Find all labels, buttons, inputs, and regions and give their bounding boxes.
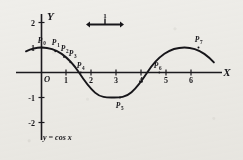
x-tick-label-6: 6 (189, 76, 193, 85)
point-marker-P3 (69, 61, 71, 63)
point-label-P6-letter: P (154, 61, 159, 70)
point-label-P4-letter: P (77, 61, 82, 70)
y-tick-label-neg1: -1 (28, 94, 35, 103)
y-tick-label-neg2: -2 (28, 119, 35, 128)
y-axis-label: Y (47, 10, 55, 22)
scale-bar-arrow-left-icon (86, 22, 90, 28)
x-tick-label-5: 5 (164, 76, 168, 85)
point-label-P3-letter: P (69, 49, 74, 58)
point-label-P4: P 4 (77, 61, 85, 71)
equation-caption: y = cos x (42, 133, 72, 142)
point-marker-P0 (41, 47, 43, 49)
point-label-P6-sub: 6 (159, 65, 162, 71)
point-label-P4-sub: 4 (82, 65, 85, 71)
scale-bar-arrow-right-icon (120, 22, 124, 28)
point-label-P5: P 5 (116, 101, 124, 111)
cosine-graph-figure: X Y O 1 2 3 4 5 6 2 1 -1 -2 P 0 P 1 P 2 … (0, 0, 243, 160)
point-label-P0-sub: 0 (43, 40, 46, 46)
point-label-P7: P 7 (195, 35, 203, 45)
point-label-P7-letter: P (195, 35, 200, 44)
point-marker-P7 (198, 47, 200, 49)
x-axis-label: X (222, 66, 231, 78)
point-label-P7-sub: 7 (200, 39, 203, 45)
point-label-P0-letter: P (38, 36, 43, 45)
x-tick-label-3: 3 (114, 76, 118, 85)
point-label-P6: P 6 (154, 61, 162, 71)
point-label-P5-letter: P (116, 101, 121, 110)
y-tick-label-2: 2 (31, 19, 35, 28)
point-label-P3: P 3 (69, 49, 77, 59)
point-marker-P5 (119, 97, 121, 99)
point-label-P2-letter: P (61, 44, 66, 53)
point-label-P5-sub: 5 (121, 105, 124, 111)
point-marker-P6 (158, 72, 160, 74)
point-marker-P4 (80, 72, 82, 74)
point-label-P1: P 1 (52, 38, 61, 48)
scale-bar-label: 1 (103, 12, 107, 20)
point-label-P0: P 0 (38, 36, 47, 46)
point-label-P3-sub: 3 (74, 53, 77, 59)
x-tick-label-1: 1 (64, 76, 68, 85)
x-tick-label-2: 2 (89, 76, 93, 85)
point-marker-P2 (63, 56, 65, 58)
point-marker-P1 (54, 50, 56, 52)
origin-label: O (44, 74, 50, 84)
scale-bar: 1 (86, 12, 124, 28)
point-label-P1-letter: P (52, 38, 57, 47)
